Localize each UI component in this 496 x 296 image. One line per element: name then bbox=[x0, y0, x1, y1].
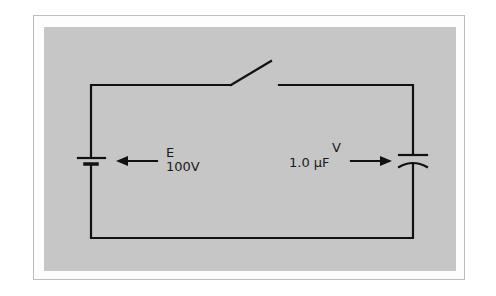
arrow-left-icon bbox=[116, 156, 128, 166]
battery-label: E bbox=[166, 146, 174, 160]
capacitor-value: 1.0 μF bbox=[289, 156, 330, 170]
wire-left-bottom bbox=[91, 163, 413, 238]
battery-voltage: 100V bbox=[166, 160, 200, 174]
wire-top-right bbox=[279, 85, 413, 155]
arrow-right-icon bbox=[380, 156, 392, 166]
capacitor-label: V bbox=[332, 141, 341, 155]
circuit-diagram bbox=[0, 0, 496, 296]
wire-top-left bbox=[91, 85, 231, 158]
switch-blade bbox=[231, 61, 271, 85]
